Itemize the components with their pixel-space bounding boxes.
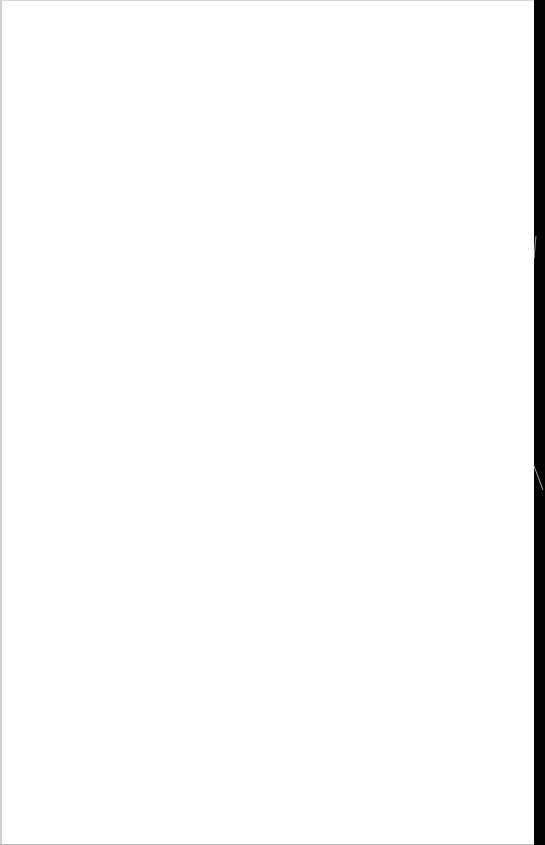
blank-document-page [0,0,534,845]
scan-dark-edge [534,0,545,845]
scan-artifact-icon [534,0,545,845]
page-content-area [22,21,514,824]
